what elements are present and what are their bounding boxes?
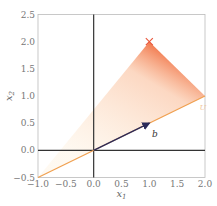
plot-area: −1.0−0.50.00.51.01.52.0−0.50.00.51.01.52… <box>3 10 212 201</box>
projection-fan-region <box>38 42 205 178</box>
y-tick-label: 0.5 <box>21 118 36 128</box>
y-tick-label: 0.0 <box>21 145 36 155</box>
x-tick-label: 1.0 <box>142 179 157 189</box>
y-tick-label: 2.5 <box>21 10 36 20</box>
y-axis-label: x2 <box>3 90 16 101</box>
y-tick-label: 1.0 <box>21 91 36 101</box>
y-tick-label: 1.5 <box>21 64 36 74</box>
x-tick-label: 2.0 <box>198 179 213 189</box>
x-tick-label: 1.5 <box>170 179 185 189</box>
chart: −1.0−0.50.00.51.01.52.0−0.50.00.51.01.52… <box>0 0 217 206</box>
annotation-U: U <box>199 103 206 112</box>
y-tick-label: 2.0 <box>21 37 36 47</box>
annotation-b: b <box>152 129 158 139</box>
x-tick-label: −0.5 <box>55 179 77 189</box>
x-tick-label: 0.0 <box>87 179 102 189</box>
x-axis-label: x1 <box>116 188 126 201</box>
y-tick-label: −0.5 <box>13 173 35 183</box>
